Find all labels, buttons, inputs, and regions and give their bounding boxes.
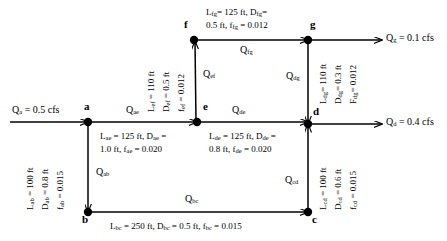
flow-dg-sub: dg xyxy=(293,74,300,81)
pipe-spec-ab-length: Lab = 100 ft xyxy=(25,168,37,210)
pipe-spec-cd-length: Lcd = 100 ft xyxy=(318,168,330,210)
flow-label-de: Qde xyxy=(232,104,245,115)
pipe-de-fric: = 0.020 xyxy=(242,144,272,154)
node-e xyxy=(193,118,201,126)
node-f xyxy=(190,36,198,44)
pipe-bc-len: = 250 ft, D xyxy=(122,221,164,231)
node-g xyxy=(304,36,312,44)
network-graphic xyxy=(0,0,447,241)
pipe-spec-dg-length: Ldg= 110 ft xyxy=(318,64,330,104)
flow-label-bc: Qbc xyxy=(185,193,198,204)
pipe-cd-f-sub: cd xyxy=(351,201,358,207)
flow-ae-sub: ae xyxy=(133,108,139,115)
pipe-cd-f: f xyxy=(348,207,358,210)
pipe-ae-len: = 125 ft, D xyxy=(111,131,153,141)
pipe-dg-D-val: = 0.3 ft xyxy=(333,65,343,91)
flow-label-ae: Qae xyxy=(126,104,139,115)
pipe-spec-cd-friction: fcd = 0.015 xyxy=(348,171,360,210)
flow-cd-sub: cd xyxy=(292,178,298,185)
external-flow-g: Qg = 0.1 cfs xyxy=(386,32,434,43)
pipe-cd-D-val: = 0.6 ft xyxy=(333,169,343,198)
pipe-spec-cd-diameter: Dcd = 0.6 ft xyxy=(333,169,345,210)
pipe-ab-D: D xyxy=(40,204,50,211)
flow-label-cd: Qcd xyxy=(285,174,298,185)
pipe-cd-D: D xyxy=(333,204,343,211)
pipe-ef-D-val: = 0.5 ft xyxy=(161,72,171,101)
pipe-cd-L-sub: cd xyxy=(321,198,328,204)
flow-ef-sub: ef xyxy=(210,72,215,79)
node-a xyxy=(84,118,92,126)
pipe-de-dia: 0.8 ft, f xyxy=(209,144,236,154)
pipe-fg-dia: 0.5 ft, f xyxy=(206,20,233,30)
pipe-dg-D: D xyxy=(333,98,343,105)
external-flow-d: Qd = 0.4 cfs xyxy=(386,116,434,127)
pipe-ab-f: f xyxy=(55,207,65,210)
pipe-dg-L-sub: dg xyxy=(321,92,328,99)
pipe-ae-dia: 1.0 ft, f xyxy=(100,144,127,154)
pipe-ef-f-sub: ef xyxy=(179,104,186,109)
flow-label-dg: Qdg xyxy=(286,70,300,81)
pipe-spec-bc: Lbc = 250 ft, Dbc = 0.5 ft, fbc = 0.015 xyxy=(110,221,242,233)
pipe-spec-de: Lde = 125 ft, Dde = 0.8 ft, fde = 0.020 xyxy=(209,131,309,156)
node-label-a: a xyxy=(84,100,90,112)
pipe-ab-L-val: = 100 ft xyxy=(25,168,35,199)
pipe-ef-L-sub: ef xyxy=(149,101,156,106)
pipe-spec-ef-diameter: Def = 0.5 ft xyxy=(161,72,173,112)
flow-label-ef: Qef xyxy=(203,68,215,79)
pipe-ab-L-sub: ab xyxy=(28,198,35,204)
flow-label-fg: Qfg xyxy=(240,44,253,55)
pipe-dg-L-val: = 110 ft xyxy=(318,64,328,92)
pipe-de-len: = 125 ft, D xyxy=(221,131,263,141)
pipe-ef-L: L xyxy=(146,107,156,113)
pipe-cd-L-val: = 100 ft xyxy=(318,168,328,199)
pipe-ef-L-val: = 110 ft xyxy=(146,71,156,102)
pipe-spec-dg-friction: Fdg= 0.012 xyxy=(348,65,360,104)
pipe-spec-ef-length: Lef = 110 ft xyxy=(146,71,158,112)
pipe-ef-f-val: = 0.012 xyxy=(176,74,186,104)
node-label-c: c xyxy=(312,213,317,225)
pipe-dg-f-val: = 0.012 xyxy=(348,65,358,93)
node-label-g: g xyxy=(310,18,316,30)
pipe-spec-dg-diameter: Ddg= 0.3 ft xyxy=(333,65,345,104)
pipe-cd-D-sub: cd xyxy=(336,197,343,203)
external-flow-g-value: = 0.1 cfs xyxy=(396,32,433,43)
flow-fg-sub: fg xyxy=(247,48,252,55)
pipe-dg-f: F xyxy=(348,99,358,104)
pipe-dg-L: L xyxy=(318,99,328,105)
pipe-spec-ab-friction: fab = 0.015 xyxy=(55,171,67,210)
pipe-ef-D: D xyxy=(161,106,171,113)
pipe-network-figure: a b c d e f g Qa = 0.5 cfs Qg = 0.1 cfs … xyxy=(0,0,447,241)
pipe-fg-fric: = 0.012 xyxy=(238,20,268,30)
pipe-bc-fric: = 0.015 xyxy=(212,221,242,231)
pipe-spec-fg: Lfg= 125 ft, Dfg= 0.5 ft, ffg = 0.012 xyxy=(206,7,310,32)
flow-bc-sub: bc xyxy=(192,197,198,204)
pipe-ef-f: f xyxy=(176,109,186,112)
node-label-f: f xyxy=(184,18,188,30)
pipe-bc-dia: = 0.5 ft, f xyxy=(170,221,206,231)
pipe-fg-len: = 125 ft, D xyxy=(217,7,257,17)
pipe-de-eq: = xyxy=(269,131,276,141)
pipe-spec-ab-diameter: Dab = 0.8 ft xyxy=(40,169,52,210)
pipe-ab-L: L xyxy=(25,205,35,211)
pipe-ab-f-sub: ab xyxy=(58,201,65,207)
node-label-b: b xyxy=(82,213,88,225)
edge-ef xyxy=(195,41,196,122)
node-d xyxy=(304,120,312,128)
node-label-d: d xyxy=(313,105,319,117)
external-flow-a-value: = 0.5 cfs xyxy=(22,104,59,115)
flow-de-sub: de xyxy=(239,108,245,115)
pipe-ab-D-sub: ab xyxy=(43,197,50,203)
flow-label-ab: Qab xyxy=(96,166,109,177)
external-flow-a: Qa = 0.5 cfs xyxy=(12,104,59,115)
pipe-cd-L: L xyxy=(318,205,328,211)
pipe-spec-ef-friction: fef = 0.012 xyxy=(176,74,188,112)
flow-ab-sub: ab xyxy=(103,170,109,177)
pipe-ef-D-sub: ef xyxy=(164,100,171,105)
pipe-fg-eq: = xyxy=(262,7,267,17)
pipe-ab-f-val: = 0.015 xyxy=(55,171,65,201)
pipe-spec-ae: Lae = 125 ft, Dae = 1.0 ft, fae = 0.020 xyxy=(100,131,200,156)
pipe-dg-f-sub: dg xyxy=(351,92,358,99)
pipe-ae-fric: = 0.020 xyxy=(132,144,162,154)
pipe-ae-eq: = xyxy=(159,131,166,141)
node-label-e: e xyxy=(203,100,208,112)
